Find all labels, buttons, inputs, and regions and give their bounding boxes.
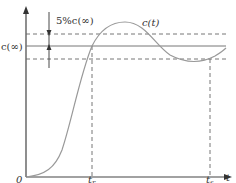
rise-time-label: tr <box>88 174 96 183</box>
steady-state-label: c(∞) <box>1 41 23 52</box>
time-axis-label: t <box>226 172 231 183</box>
settling-time-label: ts <box>206 174 214 183</box>
tolerance-label: 5%c(∞) <box>56 15 94 26</box>
origin-label: 0 <box>16 174 23 183</box>
curve-label: c(t) <box>142 17 160 28</box>
step-response-diagram: 5%c(∞) c(t) c(∞) 0 tr ts t <box>0 0 236 183</box>
diagram-canvas: 5%c(∞) c(t) c(∞) 0 tr ts t <box>0 0 236 183</box>
response-curve <box>26 22 226 177</box>
